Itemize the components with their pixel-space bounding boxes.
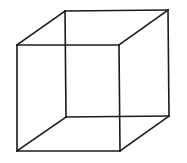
cube-edge-front-bottom-left-to-back-bottom-left — [17, 117, 66, 151]
cube-edge-back-top-right-to-back-bottom-right — [168, 10, 169, 116]
cube-edge-back-bottom-left-to-back-top-left — [65, 11, 66, 117]
cube-edge-back-bottom-right-to-back-bottom-left — [66, 116, 169, 117]
cube-edge-front-top-right-to-back-top-right — [119, 10, 168, 45]
cube-edge-back-top-left-to-back-top-right — [65, 10, 168, 11]
necker-cube-diagram — [0, 0, 187, 163]
cube-edge-front-bottom-right-to-back-bottom-right — [120, 116, 169, 151]
cube-edge-front-top-right-to-front-bottom-right — [119, 45, 120, 151]
cube-edge-front-top-left-to-back-top-left — [17, 11, 65, 45]
